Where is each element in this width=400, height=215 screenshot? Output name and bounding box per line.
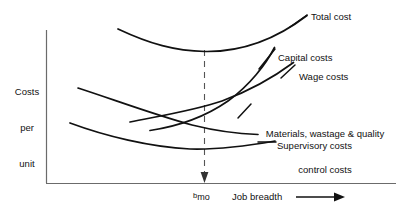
optimum-point-label: bmo — [193, 190, 210, 203]
series-label-materials-costs: Materials, wastage & quality control cos… — [254, 104, 396, 200]
y-axis-title: Costs per unit — [6, 62, 48, 194]
leader-materials-costs — [238, 104, 251, 118]
optimum-arrowhead-icon — [201, 172, 209, 183]
series-label-materials-line1: Materials, wastage & quality — [254, 128, 396, 140]
series-label-capital-costs: Capital costs — [278, 52, 332, 63]
series-label-wage-costs: Wage costs — [299, 71, 348, 82]
y-axis-title-line3: unit — [6, 158, 48, 170]
cost-curves-chart: Costs per unit Job breadth Total cost Ca… — [0, 0, 400, 215]
y-axis-title-line2: per — [6, 122, 48, 134]
series-label-materials-line2: control costs — [254, 164, 396, 176]
series-label-supervisory-costs: Supervisory costs — [277, 140, 352, 151]
y-axis-title-line1: Costs — [6, 86, 48, 98]
leader-capital-costs — [259, 49, 275, 69]
curve-supervisory-costs — [70, 123, 275, 149]
curve-total-cost — [118, 16, 307, 52]
leader-total-cost — [290, 15, 307, 27]
optimum-label-mo: mo — [197, 192, 210, 202]
series-label-total-cost: Total cost — [311, 11, 351, 22]
